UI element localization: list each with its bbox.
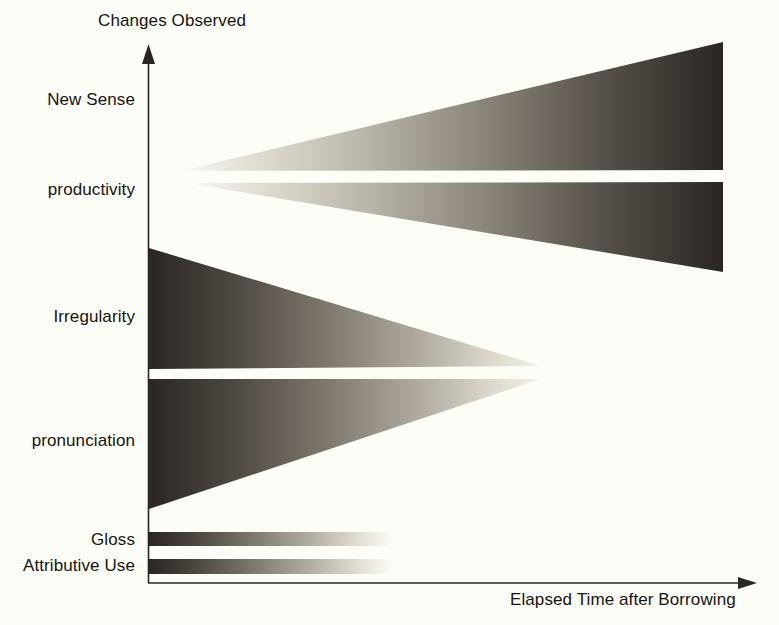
chart-title: Changes Observed [98,11,246,31]
series-attributive-use [149,559,393,574]
series-productivity [186,182,723,272]
y-label-irregularity: Irregularity [53,307,135,327]
y-label-productivity: productivity [48,180,135,200]
series-irregularity [149,248,541,369]
series-gloss [149,532,393,546]
y-label-gloss: Gloss [91,530,135,550]
y-label-attributive-use: Attributive Use [23,556,135,576]
chart-figure: Changes Observed New Sense productivity … [0,0,779,625]
x-axis [148,577,757,589]
y-label-pronunciation: pronunciation [32,431,135,451]
x-axis-title: Elapsed Time after Borrowing [510,590,736,610]
y-label-new-sense: New Sense [47,90,135,110]
series-pronunciation [149,379,541,509]
series-new-sense [180,42,723,171]
